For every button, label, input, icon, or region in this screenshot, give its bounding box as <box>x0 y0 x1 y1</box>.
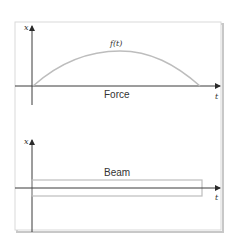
force-y-axis-label: x <box>24 23 29 32</box>
beam-caption: Beam <box>104 167 130 178</box>
beam-y-axis-label: x <box>24 137 29 146</box>
force-caption: Force <box>104 89 130 100</box>
force-curve-label: f(t) <box>109 39 122 48</box>
diagram-frame <box>15 22 223 232</box>
force-beam-diagram: x f(t) Force t x Beam t <box>0 0 235 244</box>
